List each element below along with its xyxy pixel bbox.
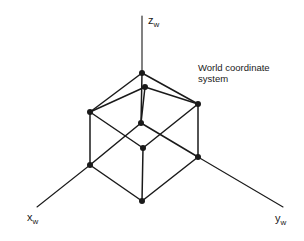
diagram-caption: World coordinate system	[198, 62, 270, 84]
vertex-dot-I	[142, 84, 148, 90]
house-wireframe-edges	[90, 73, 198, 201]
edge-LB-D	[90, 165, 142, 201]
vertex-dot-D	[139, 198, 145, 204]
vertex-dot-LB	[87, 162, 93, 168]
vertex-dot-R	[195, 101, 201, 107]
vertex-dot-C	[140, 145, 146, 151]
vertex-dot-T	[139, 70, 145, 76]
z-axis-label: zw	[148, 14, 159, 29]
world-coordinate-diagram	[0, 0, 304, 241]
x-axis-line	[37, 165, 90, 207]
vertex-dot-L	[87, 109, 93, 115]
edge-RB-D	[142, 157, 198, 201]
vertex-dot-RB	[195, 154, 201, 160]
caption-line-1: World coordinate	[198, 62, 270, 73]
caption-line-2: system	[198, 73, 270, 84]
edge-B-RB	[141, 123, 198, 157]
x-axis-label: xw	[27, 211, 38, 226]
edge-C-D	[142, 148, 143, 201]
vertex-dot-B	[138, 120, 144, 126]
y-axis-line	[198, 157, 283, 207]
y-axis-label: yw	[275, 212, 286, 227]
axes	[37, 16, 283, 207]
